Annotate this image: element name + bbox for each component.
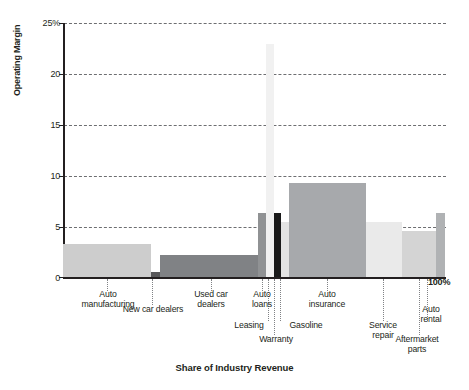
label-gasoline: Gasoline [283,320,329,330]
label-auto-insurance: Auto insurance [299,289,355,309]
bar-new-car-dealers [151,272,159,277]
x-axis-end-label: 100% [428,277,450,287]
label-aftermarket-parts: Aftermarket parts [380,334,454,354]
bar-auto-loans [258,213,266,277]
bar-warranty [274,213,281,277]
bar-gasoline [281,222,289,277]
bar-used-car-dealers [160,255,259,277]
label-auto-rental: Auto rental [409,304,453,324]
label-leasing: Leasing [228,320,270,330]
leader-service-repair [383,279,384,321]
marimekko-chart: Operating Margin 25% 20 15 10 5 0 [0,0,469,390]
label-used-car-dealers: Used car dealers [178,289,244,309]
x-axis-title: Share of Industry Revenue [0,362,469,373]
label-warranty: Warranty [252,334,300,344]
bar-auto-insurance [289,183,366,277]
bar-auto-rental [436,213,445,277]
bar-service-repair [366,222,402,277]
leader-new-car-dealers [152,279,153,305]
label-auto-loans: Auto loans [239,289,285,309]
bar-aftermarket-parts [402,231,436,277]
bar-leasing [266,44,274,277]
bar-auto-manufacturing [63,244,151,277]
